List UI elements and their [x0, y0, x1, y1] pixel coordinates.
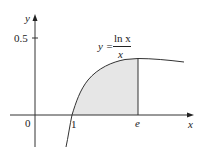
plot-canvas [0, 0, 205, 157]
y-axis-arrow-icon [33, 14, 38, 21]
equation-numerator: ln x [114, 32, 131, 44]
x-axis-label: x [188, 119, 193, 130]
origin-label: 0 [25, 118, 31, 129]
shaded-area [72, 59, 138, 116]
x-tick-label-1: 1 [71, 119, 77, 130]
fraction-bar [113, 46, 131, 47]
y-tick-label-0.5: 0.5 [14, 33, 28, 44]
equation-denominator: x [118, 48, 123, 60]
equation-lhs: y = [98, 40, 113, 52]
x-tick-label-e: e [135, 118, 140, 129]
x-axis-arrow-icon [187, 113, 194, 118]
y-axis-label: y [25, 13, 30, 24]
